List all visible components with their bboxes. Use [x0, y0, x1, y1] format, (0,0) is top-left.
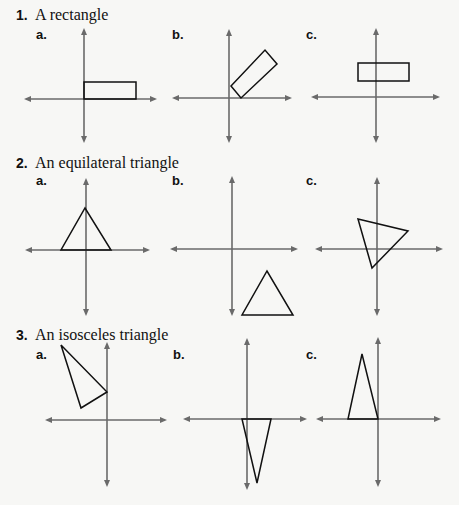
- graph-2b: [170, 176, 298, 316]
- arrow-up-icon: [83, 178, 89, 185]
- arrow-left-icon: [183, 416, 190, 422]
- arrow-left-icon: [170, 246, 177, 252]
- graph-3c: [316, 337, 441, 487]
- triangle-shape: [242, 271, 293, 315]
- triangle-shape: [348, 354, 378, 419]
- arrow-up-icon: [375, 337, 381, 344]
- arrow-left-icon: [45, 417, 52, 423]
- arrow-left-icon: [24, 96, 31, 102]
- arrow-down-icon: [375, 480, 381, 487]
- coordinate-figures: [0, 0, 459, 505]
- arrow-down-icon: [83, 309, 89, 316]
- arrow-up-icon: [104, 342, 110, 349]
- arrow-up-icon: [374, 177, 380, 184]
- graph-2a: [25, 178, 150, 316]
- arrow-right-icon: [291, 246, 298, 252]
- arrow-up-icon: [244, 338, 250, 345]
- arrow-right-icon: [143, 247, 150, 253]
- arrow-down-icon: [229, 309, 235, 316]
- arrow-down-icon: [374, 309, 380, 316]
- graph-1b: [172, 29, 292, 143]
- rectangle-shape: [231, 50, 277, 98]
- arrow-up-icon: [226, 29, 232, 36]
- graph-2c: [315, 177, 443, 316]
- arrow-right-icon: [300, 416, 307, 422]
- arrow-up-icon: [373, 28, 379, 35]
- arrow-left-icon: [311, 94, 318, 100]
- arrow-up-icon: [229, 176, 235, 183]
- graph-3a: [45, 342, 167, 487]
- triangle-shape: [358, 219, 408, 268]
- arrow-left-icon: [315, 246, 322, 252]
- arrow-up-icon: [81, 28, 87, 35]
- graph-1c: [311, 28, 440, 143]
- arrow-right-icon: [434, 416, 441, 422]
- arrow-right-icon: [160, 417, 167, 423]
- arrow-down-icon: [373, 136, 379, 143]
- arrow-down-icon: [104, 480, 110, 487]
- arrow-down-icon: [244, 483, 250, 490]
- arrow-right-icon: [285, 95, 292, 101]
- arrow-right-icon: [433, 94, 440, 100]
- arrow-right-icon: [436, 246, 443, 252]
- triangle-shape: [61, 345, 107, 408]
- graph-3b: [183, 338, 307, 490]
- arrow-left-icon: [172, 95, 179, 101]
- rectangle-shape: [358, 63, 409, 81]
- graph-1a: [24, 28, 157, 143]
- arrow-down-icon: [81, 136, 87, 143]
- rectangle-shape: [84, 82, 136, 99]
- arrow-left-icon: [25, 247, 32, 253]
- arrow-right-icon: [150, 96, 157, 102]
- arrow-down-icon: [226, 136, 232, 143]
- arrow-left-icon: [316, 416, 323, 422]
